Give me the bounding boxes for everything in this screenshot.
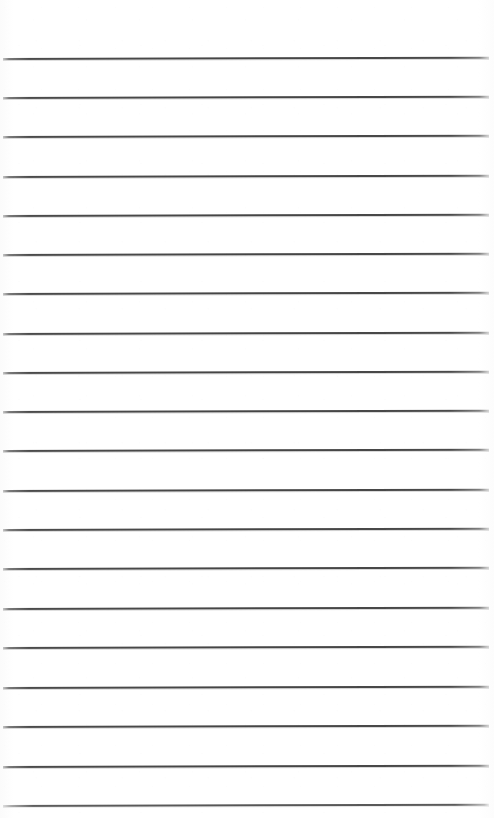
ruled-line	[3, 804, 489, 805]
ruled-line	[3, 607, 489, 608]
ruled-line	[3, 646, 489, 647]
ruled-line	[3, 135, 489, 136]
ruled-line	[3, 528, 489, 529]
paper-surface	[0, 0, 494, 818]
ruled-line-ink	[3, 96, 489, 99]
ruled-line-ink	[3, 528, 489, 531]
ruled-line-ink	[3, 804, 489, 807]
ruled-line-ink	[3, 567, 489, 570]
ruled-line	[3, 96, 489, 97]
ruled-line	[3, 725, 489, 726]
ruled-line-ink	[3, 332, 489, 335]
ruled-line	[3, 175, 489, 176]
ruled-line	[3, 371, 489, 372]
ruled-line-ink	[3, 214, 489, 217]
ruled-line-ink	[3, 253, 489, 256]
ruled-line	[3, 57, 489, 58]
scan-grain-overlay	[0, 0, 494, 818]
ruled-line-ink	[3, 410, 489, 413]
ruled-line-ink	[3, 765, 489, 768]
ruled-line	[3, 765, 489, 766]
ruled-line-ink	[3, 686, 489, 689]
ruled-line-ink	[3, 449, 489, 452]
ruled-line-ink	[3, 135, 489, 138]
ruled-line-ink	[3, 489, 489, 492]
ruled-line	[3, 253, 489, 254]
ruled-line	[3, 332, 489, 333]
ruled-line	[3, 214, 489, 215]
ruled-line-ink	[3, 175, 489, 178]
scanned-page	[0, 0, 494, 818]
ruled-line	[3, 449, 489, 450]
ruled-line	[3, 410, 489, 411]
ruled-line	[3, 292, 489, 293]
ruled-line	[3, 686, 489, 687]
ruled-line-ink	[3, 371, 489, 374]
ruled-line-ink	[3, 57, 489, 60]
ruled-line-ink	[3, 646, 489, 649]
ruled-line-ink	[3, 725, 489, 728]
ruled-line	[3, 567, 489, 568]
ruled-line-ink	[3, 607, 489, 610]
ruled-line-ink	[3, 292, 489, 295]
ruled-line	[3, 489, 489, 490]
